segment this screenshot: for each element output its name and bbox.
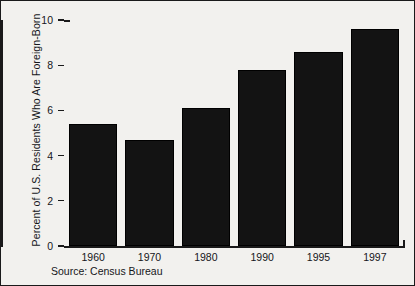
y-axis-tick-label: 10 [13, 14, 53, 26]
y-axis-tick-label: 0 [13, 240, 53, 252]
x-axis-line [64, 246, 405, 248]
y-axis-tick-label: 2 [13, 195, 53, 207]
bar [69, 124, 117, 246]
source-note: Source: Census Bureau [51, 265, 162, 277]
x-axis-tick-label: 1997 [347, 251, 403, 263]
chart-figure: Percent of U.S. Residents Who Are Foreig… [0, 0, 415, 286]
y-axis-tick-label: 6 [13, 104, 53, 116]
y-axis-tick [58, 200, 64, 201]
x-axis-tick-label: 1990 [234, 251, 290, 263]
bar [294, 52, 342, 246]
x-axis-tick-label: 1960 [65, 251, 121, 263]
x-axis-right-cap [403, 240, 405, 248]
bar [125, 140, 173, 246]
x-axis-tick-label: 1970 [122, 251, 178, 263]
y-axis-top-cap [64, 20, 70, 22]
y-axis-tick [58, 65, 64, 66]
bar [351, 29, 399, 246]
y-axis-tick [58, 245, 64, 246]
y-axis-tick [58, 19, 64, 20]
x-axis-tick-label: 1980 [178, 251, 234, 263]
bar [182, 108, 230, 246]
y-axis-title: Percent of U.S. Residents Who Are Foreig… [23, 7, 49, 253]
y-axis-line [1, 20, 3, 247]
y-axis-tick [58, 110, 64, 111]
y-axis-tick [58, 155, 64, 156]
y-axis-tick-label: 8 [13, 59, 53, 71]
x-axis-tick-label: 1995 [291, 251, 347, 263]
y-axis-tick-label: 4 [13, 150, 53, 162]
bar [238, 70, 286, 246]
